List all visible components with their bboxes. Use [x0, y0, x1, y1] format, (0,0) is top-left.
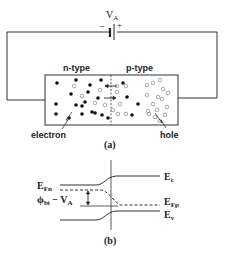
electron-dot [106, 116, 110, 120]
electron-dot [99, 78, 103, 82]
valence-band-edge [60, 211, 160, 220]
hole-dot [153, 115, 157, 119]
hole-dot [165, 105, 169, 109]
hole-dot [93, 101, 97, 105]
electron-dot [74, 78, 78, 82]
pn-junction-diagram: VA − + n-type p-type electron hole (a) [0, 0, 227, 255]
left-wire [7, 32, 110, 100]
hole-dot [151, 102, 155, 106]
electron-dot [96, 96, 100, 100]
electron-dot [130, 113, 134, 117]
electron-dot [100, 113, 104, 117]
hole-dot [115, 90, 119, 94]
hole-dot [163, 113, 167, 117]
electron-callout-line [62, 112, 72, 129]
conduction-band-edge [60, 176, 160, 185]
band-diagram [60, 160, 160, 230]
hole-dot [151, 81, 155, 85]
hole-dot [124, 112, 128, 116]
hole-dot [103, 103, 107, 107]
hole-dot [161, 87, 165, 91]
holes-group [72, 78, 170, 123]
electron-dot [69, 92, 73, 96]
hole-dot [80, 94, 84, 98]
hole-dot [111, 108, 115, 112]
electron-dot [121, 81, 125, 85]
electron-dot [80, 104, 84, 108]
electron-dot [74, 103, 78, 107]
hole-dot [155, 108, 159, 112]
quasi-fermi-level [60, 190, 160, 205]
hole-dot [72, 84, 76, 88]
p-type-label: p-type [126, 63, 153, 73]
electron-dot [55, 81, 59, 85]
efn-label: EFn [37, 180, 52, 193]
circuit [7, 32, 217, 100]
caption-b: (b) [104, 235, 116, 247]
ev-label: Ev [164, 209, 175, 222]
electron-dot [54, 102, 58, 106]
electron-dot [136, 102, 140, 106]
n-type-label: n-type [63, 63, 90, 73]
electron-dot [80, 112, 84, 116]
hole-dot [98, 88, 102, 92]
ec-label: Ec [164, 171, 174, 184]
hole-dot [145, 93, 149, 97]
hole-label: hole [160, 130, 179, 140]
electron-label: electron [31, 130, 66, 140]
hole-dot [166, 91, 170, 95]
hole-dot [145, 83, 149, 87]
barrier-label: ϕbi − VA [37, 193, 73, 207]
efp-label: EFp [164, 196, 179, 209]
electron-dot [88, 83, 92, 87]
hole-dot [158, 78, 162, 82]
hole-dot [118, 102, 122, 106]
hole-dot [116, 112, 120, 116]
hole-dot [156, 95, 160, 99]
hole-dot [124, 84, 128, 88]
electron-dot [93, 111, 97, 115]
electron-dot [83, 100, 87, 104]
electron-dot [86, 90, 90, 94]
electron-dot [125, 95, 129, 99]
electron-dot [54, 112, 58, 116]
battery-plus-sign: + [117, 20, 122, 30]
barrier-arrow [87, 191, 90, 205]
battery-minus-sign: − [99, 21, 105, 32]
hole-dot [160, 97, 164, 101]
caption-a: (a) [104, 139, 116, 151]
hole-callout-line [155, 113, 166, 128]
battery-icon [110, 24, 114, 40]
